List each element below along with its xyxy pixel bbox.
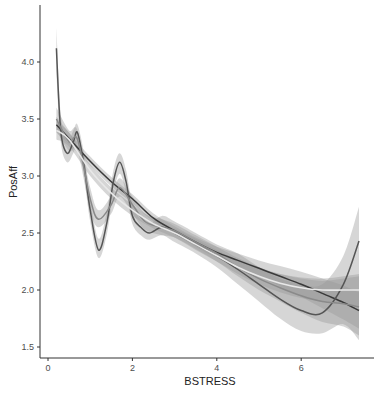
x-tick-label: 4	[214, 363, 219, 373]
y-tick-label: 2.0	[21, 285, 34, 295]
y-axis-title: PosAff	[7, 165, 19, 198]
y-tick-label: 2.5	[21, 228, 34, 238]
y-axis-ticks: 1.52.02.53.03.54.0	[21, 57, 40, 352]
y-tick-label: 4.0	[21, 57, 34, 67]
y-tick-label: 3.5	[21, 114, 34, 124]
medium-gray-band	[56, 108, 359, 336]
chart: 1.52.02.53.03.54.0 0246 BSTRESS PosAff	[0, 0, 383, 394]
x-axis-title: BSTRESS	[184, 375, 235, 387]
x-tick-label: 0	[45, 363, 50, 373]
x-tick-label: 2	[130, 363, 135, 373]
y-tick-label: 3.0	[21, 171, 34, 181]
x-axis-ticks: 0246	[45, 358, 303, 373]
y-tick-label: 1.5	[21, 342, 34, 352]
x-tick-label: 6	[299, 363, 304, 373]
